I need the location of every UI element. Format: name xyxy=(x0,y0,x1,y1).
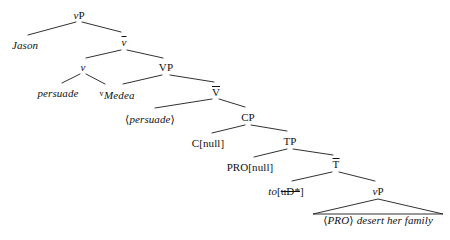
pro-trace-text: PRO xyxy=(328,214,350,226)
node-pro-null: PRO[null] xyxy=(227,162,274,173)
trace-persuade-text: persuade xyxy=(129,113,170,125)
t-bar-text: T xyxy=(333,158,340,171)
node-big-v-bar: V xyxy=(212,86,220,99)
node-to-feature: to[uD*] xyxy=(268,186,304,197)
node-medea: Medea xyxy=(104,89,134,101)
trace-close-angle: ⟩ xyxy=(171,113,175,125)
edge-vp-to-jason xyxy=(28,22,76,35)
node-cp: CP xyxy=(241,112,255,123)
node-v-head: v xyxy=(81,62,86,73)
edge-vbar-to-vp xyxy=(127,50,163,58)
edge-vbarsmall-to-trace xyxy=(155,99,212,108)
node-vp-span-text: ⟨PRO⟩desert her family xyxy=(323,215,433,226)
triangle-group xyxy=(313,199,443,214)
edge-vp-to-vbar xyxy=(82,22,121,32)
node-c-null: C[null] xyxy=(192,138,224,149)
to-close-bracket: ] xyxy=(300,185,304,197)
pro-close-angle: ⟩ xyxy=(349,214,353,226)
edge-cp-to-cnull xyxy=(212,125,245,133)
node-persuade-trace: ⟨persuade⟩ xyxy=(125,114,175,125)
node-vp-lower: vP xyxy=(372,186,383,197)
edge-tp-to-pronull xyxy=(254,149,287,157)
edge-vbar-to-v xyxy=(86,50,121,58)
to-feature-value: uD* xyxy=(281,185,300,197)
edge-cp-to-tp xyxy=(251,125,287,131)
node-medea-group: vMedea xyxy=(99,90,134,101)
node-t-bar: T xyxy=(333,158,340,171)
edge-vbarsmall-to-cp xyxy=(219,99,245,107)
edge-group xyxy=(28,22,375,181)
node-persuade: persuade xyxy=(37,88,78,99)
vp-root-p: P xyxy=(78,9,84,21)
edge-tbar-to-vplower xyxy=(339,172,375,181)
syntax-tree-diagram: vP Jason v v VP persuade vMedea V ⟨persu… xyxy=(0,0,450,240)
node-vp-root: vP xyxy=(73,10,84,21)
tree-edges-canvas xyxy=(0,0,450,240)
edge-vp-to-vbar-small xyxy=(170,75,214,82)
v-bar-text: v xyxy=(122,36,127,49)
node-tp: TP xyxy=(283,136,296,147)
node-v-bar: v xyxy=(122,36,127,49)
edge-tbar-to-to xyxy=(292,172,332,181)
edge-vp-to-medea xyxy=(123,75,162,84)
edge-tp-to-tbar xyxy=(293,149,333,155)
vp-lower-p: P xyxy=(377,185,383,197)
vp-constituent-triangle xyxy=(313,199,443,214)
node-vp: VP xyxy=(159,62,173,73)
edge-v-to-persuade xyxy=(62,74,80,83)
to-text: to xyxy=(268,185,277,197)
node-jason: Jason xyxy=(12,40,38,51)
edge-v-to-medea xyxy=(86,74,105,84)
vp-span-phrase: desert her family xyxy=(354,214,433,226)
big-v-bar-text: V xyxy=(212,86,220,99)
